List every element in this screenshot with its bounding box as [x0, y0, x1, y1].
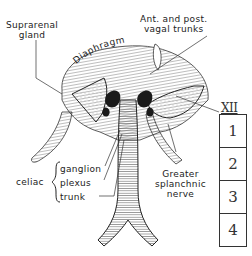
- celiac-brace: [52, 162, 60, 202]
- trunk-label: trunk: [60, 190, 101, 204]
- splanchnic-line2: splanchnic: [155, 179, 206, 189]
- vertebra-xii-label: XII: [221, 101, 238, 115]
- vertebra-l1: 1: [220, 115, 246, 148]
- suprarenal-line1: Suprarenal: [6, 20, 58, 30]
- splanchnic-line1: Greater: [155, 169, 206, 179]
- splanchnic-line3: nerve: [155, 189, 206, 199]
- vagal-line1: Ant. and post.: [140, 14, 207, 24]
- greater-splanchnic-label: Greater splanchnic nerve: [155, 169, 206, 199]
- suprarenal-line2: gland: [6, 30, 58, 40]
- vagal-trunks-label: Ant. and post. vagal trunks: [140, 14, 207, 34]
- ganglion-label: ganglion: [60, 162, 101, 176]
- lumbar-vertebrae-column: 1 2 3 4: [219, 114, 247, 247]
- vertebra-l3: 3: [220, 181, 246, 214]
- vertebra-l4: 4: [220, 214, 246, 247]
- celiac-label: celiac: [16, 177, 44, 187]
- celiac-parts-list: ganglion plexus trunk: [60, 162, 101, 204]
- vagal-line2: vagal trunks: [140, 24, 207, 34]
- vertebra-l2: 2: [220, 148, 246, 181]
- plexus-label: plexus: [60, 176, 101, 190]
- suprarenal-gland-label: Suprarenal gland: [6, 20, 58, 40]
